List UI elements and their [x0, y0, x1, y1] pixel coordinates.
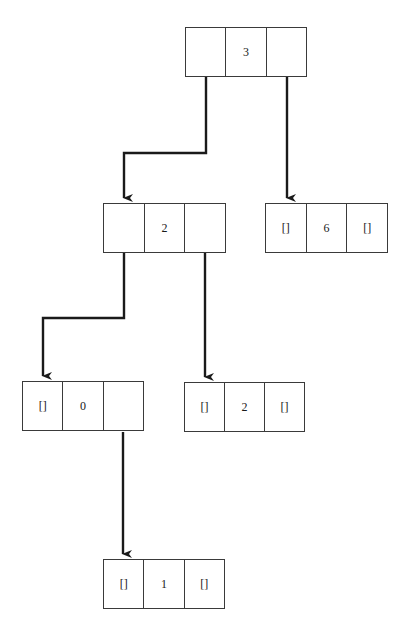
value-cell: 2	[144, 204, 185, 252]
tree-node-2-internal: 2	[103, 203, 226, 253]
tree-node-1: [] 1 []	[103, 559, 225, 609]
tree-node-6: [] 6 []	[265, 203, 388, 253]
tree-node-2-leaf: [] 2 []	[184, 382, 305, 432]
tree-edges	[0, 0, 394, 628]
edge-n2a-left-to-n0	[43, 253, 124, 376]
left-pointer-cell	[186, 28, 225, 76]
right-pointer-cell: []	[184, 560, 224, 608]
left-pointer-cell: []	[185, 383, 224, 431]
tree-node-0: [] 0	[22, 381, 144, 431]
right-pointer-cell	[103, 382, 143, 430]
right-pointer-cell	[184, 204, 225, 252]
value-cell: 3	[225, 28, 265, 76]
left-pointer-cell: []	[23, 382, 62, 430]
left-pointer-cell: []	[104, 560, 143, 608]
left-pointer-cell	[104, 204, 144, 252]
value-cell: 1	[143, 560, 183, 608]
right-pointer-cell	[266, 28, 306, 76]
tree-node-3: 3	[185, 27, 307, 77]
value-cell: 0	[62, 382, 102, 430]
left-pointer-cell: []	[266, 204, 306, 252]
binary-tree-diagram: 3 2 [] 6 [] [] 0 [] 2 [] [] 1 []	[0, 0, 394, 628]
right-pointer-cell: []	[346, 204, 387, 252]
edge-n3-left-to-n2a	[124, 77, 206, 198]
value-cell: 2	[224, 383, 264, 431]
value-cell: 6	[306, 204, 347, 252]
right-pointer-cell: []	[264, 383, 304, 431]
